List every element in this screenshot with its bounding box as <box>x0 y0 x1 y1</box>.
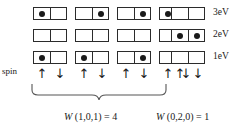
level-box-2ev-col1 <box>33 29 67 42</box>
level-box-1ev-col3 <box>117 51 151 64</box>
spin-up-arrow-icon: ↑ <box>117 66 135 81</box>
cell-3ev-col3-up <box>118 8 134 19</box>
level-box-2ev-col3 <box>117 29 151 42</box>
spin-row-col1: ↑ ↓ <box>33 66 69 81</box>
cell-2ev-col2-up <box>76 30 92 41</box>
w-label-right: W (0,2,0) = 1 <box>156 111 209 122</box>
spin-row-col2: ↑ ↓ <box>75 66 111 81</box>
spin-up-arrow-icon: ↑ <box>33 66 51 81</box>
level-box-2ev-col5 <box>171 29 205 42</box>
energy-label-2ev: 2eV <box>213 29 229 39</box>
electron-dot <box>39 55 45 61</box>
cell-1ev-col2-up <box>76 52 92 63</box>
cell-2ev-col3-up <box>118 30 134 41</box>
w-args-right: (0,2,0) <box>167 111 194 122</box>
spin-row-col5: ↑ ↓ <box>171 66 207 81</box>
cell-3ev-col5-up <box>172 8 188 19</box>
electron-dot <box>177 33 183 39</box>
electron-dot <box>39 11 45 17</box>
level-box-1ev-col1 <box>33 51 67 64</box>
spin-down-arrow-icon: ↓ <box>51 66 69 81</box>
cell-3ev-col5-down <box>188 8 204 19</box>
electron-dot <box>140 55 146 61</box>
cell-3ev-col1-down <box>50 8 66 19</box>
spin-row-col3: ↑ ↓ <box>117 66 153 81</box>
spin-down-arrow-icon: ↓ <box>189 66 207 81</box>
cell-2ev-col1-down <box>50 30 66 41</box>
w-args-left: (1,0,1) <box>75 111 102 122</box>
cell-3ev-col2-down <box>92 8 108 19</box>
cell-1ev-col1-up <box>34 52 50 63</box>
w-value-left: 4 <box>112 111 117 122</box>
electron-dot <box>98 11 104 17</box>
spin-down-arrow-icon: ↓ <box>93 66 111 81</box>
level-box-3ev-col3 <box>117 7 151 20</box>
level-box-1ev-col2 <box>75 51 109 64</box>
w-value-right: 1 <box>204 111 209 122</box>
cell-1ev-col5-up <box>172 52 188 63</box>
level-box-3ev-col1 <box>33 7 67 20</box>
electron-dot <box>140 11 146 17</box>
cell-1ev-col2-down <box>92 52 108 63</box>
cell-1ev-col1-down <box>50 52 66 63</box>
energy-level-microstate-diagram: 3eV 2eV 1eV ↑ ↓ <box>0 0 246 133</box>
cell-2ev-col5-up <box>172 30 188 41</box>
cell-1ev-col3-up <box>118 52 134 63</box>
level-box-3ev-col2 <box>75 7 109 20</box>
cell-2ev-col1-up <box>34 30 50 41</box>
w-label-left: W (1,0,1) = 4 <box>64 111 117 122</box>
cell-3ev-col3-down <box>134 8 150 19</box>
cell-2ev-col2-down <box>92 30 108 41</box>
group-brace-left <box>31 84 167 100</box>
cell-1ev-col3-down <box>134 52 150 63</box>
energy-label-3ev: 3eV <box>213 7 229 17</box>
level-box-3ev-col5 <box>171 7 205 20</box>
spin-up-arrow-icon: ↑ <box>75 66 93 81</box>
spin-up-arrow-icon: ↑ <box>171 66 189 81</box>
cell-2ev-col3-down <box>134 30 150 41</box>
cell-2ev-col5-down <box>188 30 204 41</box>
energy-label-1ev: 1eV <box>213 51 229 61</box>
electron-dot <box>81 55 87 61</box>
spin-down-arrow-icon: ↓ <box>135 66 153 81</box>
level-box-1ev-col5 <box>171 51 205 64</box>
cell-3ev-col2-up <box>76 8 92 19</box>
electron-dot <box>194 33 200 39</box>
cell-3ev-col1-up <box>34 8 50 19</box>
spin-axis-label: spin <box>2 66 17 76</box>
cell-1ev-col5-down <box>188 52 204 63</box>
level-box-2ev-col2 <box>75 29 109 42</box>
